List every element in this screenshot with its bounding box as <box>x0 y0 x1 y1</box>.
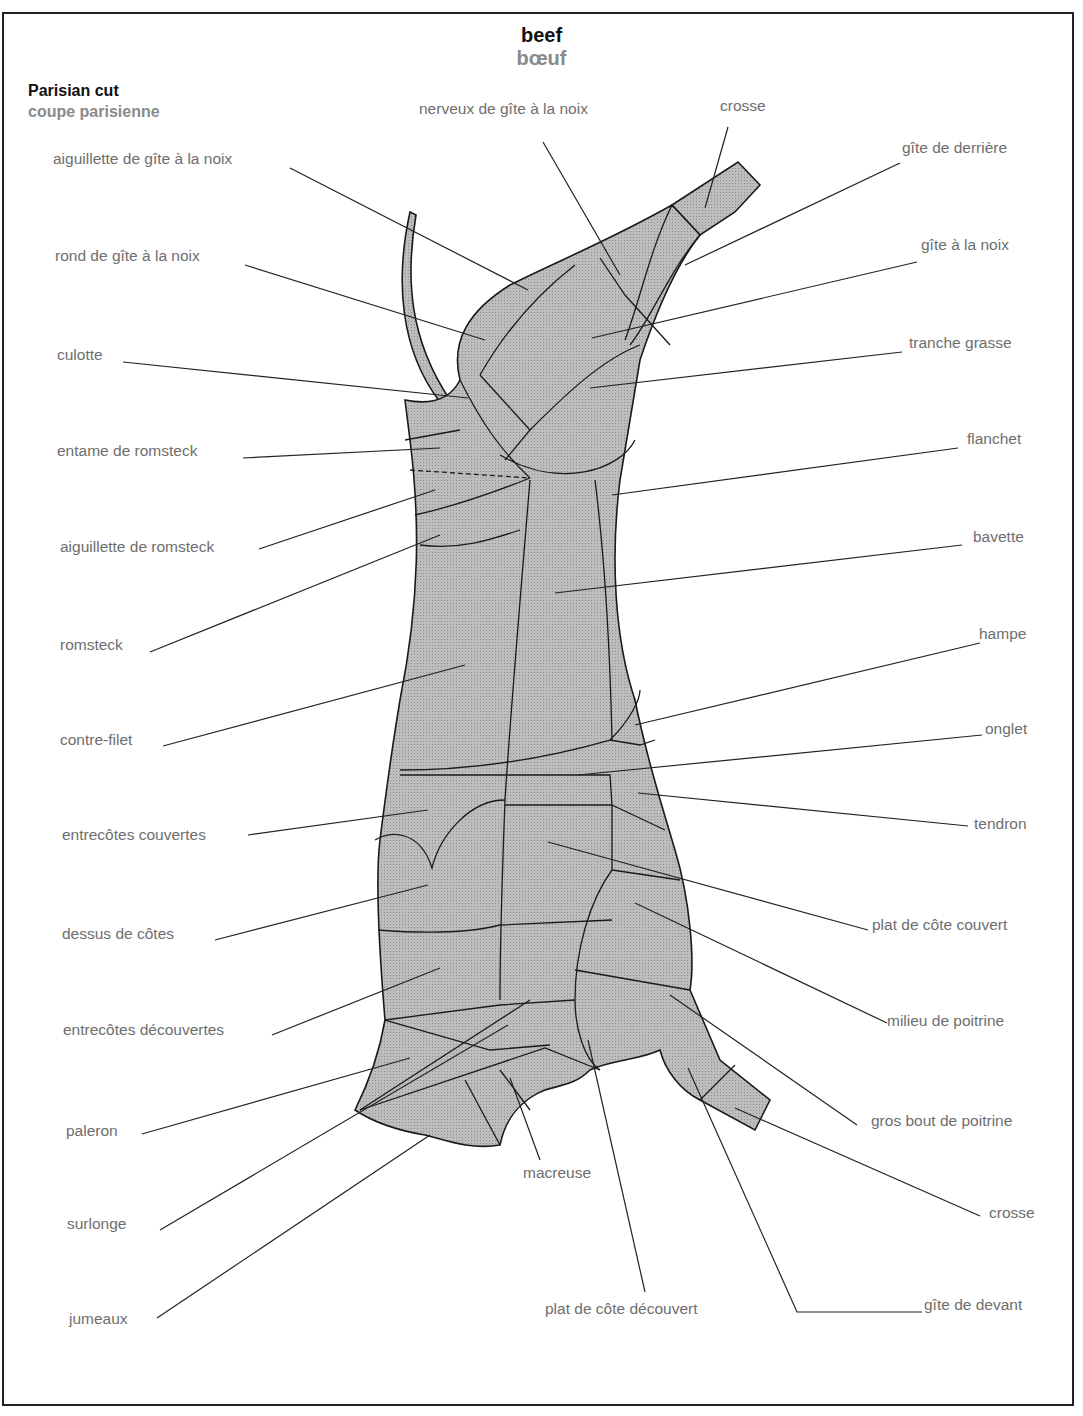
label-bavette: bavette <box>973 528 1024 546</box>
label-tranche-grasse: tranche grasse <box>909 334 1012 352</box>
label-crosse-bottom: crosse <box>989 1204 1035 1222</box>
label-hampe: hampe <box>979 625 1026 643</box>
label-gite-de-devant: gîte de devant <box>924 1296 1022 1314</box>
label-surlonge: surlonge <box>67 1215 126 1233</box>
label-entame-de-romsteck: entame de romsteck <box>57 442 197 460</box>
label-milieu-de-poitrine: milieu de poitrine <box>887 1012 1004 1030</box>
label-gite-de-derriere: gîte de derrière <box>902 139 1007 157</box>
label-paleron: paleron <box>66 1122 118 1140</box>
label-aiguillette-de-romsteck: aiguillette de romsteck <box>60 538 214 556</box>
label-aiguillette-de-gite-a-la-noix: aiguillette de gîte à la noix <box>53 150 232 168</box>
label-plat-de-cote-couvert: plat de côte couvert <box>872 916 1007 934</box>
label-macreuse: macreuse <box>523 1164 591 1182</box>
label-tendron: tendron <box>974 815 1027 833</box>
label-onglet: onglet <box>985 720 1027 738</box>
label-romsteck: romsteck <box>60 636 123 654</box>
label-contre-filet: contre-filet <box>60 731 132 749</box>
label-entrecotes-decouvertes: entrecôtes découvertes <box>63 1021 224 1039</box>
label-culotte: culotte <box>57 346 103 364</box>
label-crosse-top: crosse <box>720 97 766 115</box>
label-gros-bout-de-poitrine: gros bout de poitrine <box>871 1112 1012 1130</box>
carcass-shape <box>355 162 770 1146</box>
beef-carcass-diagram <box>0 0 1083 1416</box>
label-entrecotes-couvertes: entrecôtes couvertes <box>62 826 206 844</box>
label-rond-de-gite-a-la-noix: rond de gîte à la noix <box>55 247 200 265</box>
label-jumeaux: jumeaux <box>69 1310 128 1328</box>
label-plat-de-cote-decouvert: plat de côte découvert <box>545 1300 698 1318</box>
label-nerveux-de-gite-a-la-noix: nerveux de gîte à la noix <box>419 100 588 118</box>
label-gite-a-la-noix: gîte à la noix <box>921 236 1009 254</box>
label-flanchet: flanchet <box>967 430 1021 448</box>
label-dessus-de-cotes: dessus de côtes <box>62 925 174 943</box>
